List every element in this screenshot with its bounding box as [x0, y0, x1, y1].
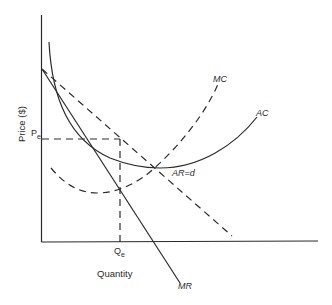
mr-curve — [42, 69, 180, 283]
pe-label: Pe — [31, 128, 41, 140]
mr-label: MR — [178, 281, 192, 291]
y-axis-label: Price ($) — [16, 106, 27, 142]
ac-label: AC — [255, 108, 269, 118]
pe-sub: e — [37, 133, 41, 140]
x-axis-label: Quantity — [97, 268, 133, 279]
diagram-canvas: MC AC AR=d MR Pe Qe Quantity Price ($) — [0, 0, 332, 305]
ac-curve — [49, 42, 257, 168]
qe-sub: e — [121, 251, 125, 258]
qe-main: Q — [114, 246, 121, 256]
qe-label: Qe — [114, 246, 125, 258]
ar-demand-curve — [42, 69, 232, 236]
x-axis — [42, 241, 319, 242]
mc-label: MC — [213, 74, 227, 84]
ar-label: AR=d — [171, 168, 196, 178]
